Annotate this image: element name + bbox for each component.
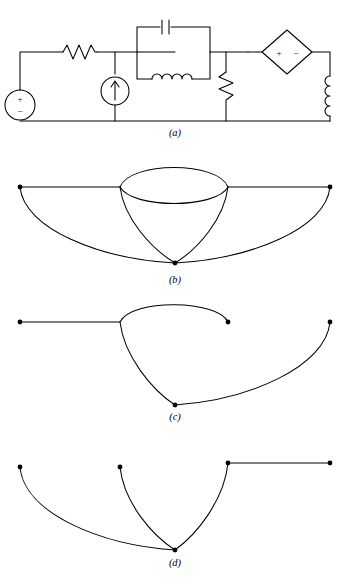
graph-node [226, 461, 231, 466]
cotree-edge-midleft-to-bottom [120, 467, 175, 550]
circuit-schematic: + − [0, 0, 350, 145]
tank-inductor [152, 74, 192, 79]
dependent-source-minus-label: − [293, 48, 298, 58]
cotree-edge-left-to-bottom [20, 467, 175, 550]
graph-node [18, 320, 23, 325]
graph-node [173, 548, 178, 553]
figure-container: + − [0, 0, 350, 585]
edge-midleft-midright-lower [120, 187, 228, 204]
tank-right-top-wire [171, 27, 210, 52]
voltage-source-plus-label: + [17, 94, 22, 104]
edge-right-to-bottom [175, 187, 330, 263]
wire-source-to-output [312, 52, 330, 76]
edge-midright-to-bottom [175, 187, 228, 263]
series-resistor [63, 45, 97, 59]
caption-b: (b) [0, 274, 350, 285]
cotree-edge-midright-to-bottom [175, 463, 228, 550]
graph-node [18, 185, 23, 190]
graph-node [18, 465, 23, 470]
dependent-source-plus-label: + [276, 48, 281, 58]
graph-node [328, 320, 333, 325]
graph-node [328, 185, 333, 190]
tree-edge-right-to-bottom [175, 322, 330, 405]
wire-left-top [20, 52, 63, 90]
graph-node [173, 261, 178, 266]
voltage-source-minus-label: − [17, 106, 22, 116]
dependent-voltage-source [262, 30, 312, 74]
caption-a: (a) [0, 127, 350, 138]
tank-left-top-wire [137, 27, 160, 52]
graph-node [226, 320, 231, 325]
panel-circuit: + − [0, 0, 350, 145]
shunt-resistor [219, 72, 233, 121]
graph-node [118, 465, 123, 470]
caption-c: (c) [0, 411, 350, 422]
edge-midleft-midright-upper [120, 168, 228, 188]
tank-left-bottom-wire [137, 52, 152, 79]
panel-linear-graph [0, 145, 350, 290]
tank-right-bottom-wire [192, 52, 210, 79]
graph-node [173, 403, 178, 408]
tree-edge-midleft-to-bottom [120, 322, 175, 405]
linear-graph [0, 145, 350, 290]
caption-d: (d) [0, 557, 350, 568]
graph-node [328, 461, 333, 466]
output-inductor [325, 76, 330, 116]
tree-edge-midleft-midright-upper [120, 305, 228, 322]
edge-left-to-bottom [20, 187, 175, 263]
edge-midleft-to-bottom [120, 187, 175, 263]
